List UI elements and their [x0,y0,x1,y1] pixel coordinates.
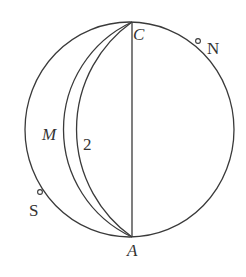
point-n-marker [196,39,201,44]
label-a: A [126,241,138,260]
label-c: C [133,25,145,44]
point-s-marker [38,190,43,195]
diagram-canvas: C N M 2 S A [0,0,246,277]
label-m: M [41,125,57,144]
outer-circle [25,22,234,237]
arc-m [63,22,132,237]
label-2: 2 [83,135,92,154]
label-n: N [207,39,219,58]
label-s: S [29,201,38,220]
arc-2 [77,22,132,237]
